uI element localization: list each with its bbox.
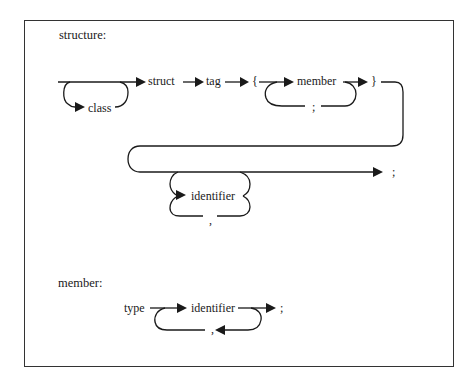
railroad-lines (0, 0, 473, 382)
